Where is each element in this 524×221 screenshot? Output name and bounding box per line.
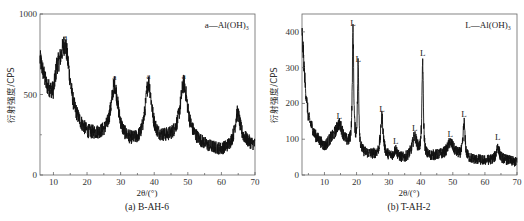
y-axis-label: 衍射强度/CPS [6, 67, 16, 122]
peak-label: L [393, 136, 399, 146]
x-axis-label: 2θ/(°) [399, 188, 420, 198]
y-tick-label: 0 [295, 170, 300, 180]
x-tick-label: 10 [49, 177, 59, 187]
x-tick-label: 70 [513, 177, 523, 187]
y-tick-label: 0 [33, 170, 38, 180]
x-tick-label: 70 [251, 177, 261, 187]
figure-caption: (b) T-AH-2 [387, 202, 430, 213]
x-tick-label: 10 [320, 177, 330, 187]
x-tick-label: 50 [448, 177, 458, 187]
figure-caption: (a) B-AH-6 [125, 202, 169, 213]
peak-label: L [355, 54, 361, 64]
y-axis-label: 衍射强度/CPS [269, 67, 279, 122]
legend-text: L—Al(OH)₃ [465, 20, 511, 30]
xrd-pattern-line [40, 37, 255, 155]
y-tick-label: 1000 [19, 9, 38, 19]
peak-label: L [379, 104, 385, 114]
peak-label: L [336, 111, 342, 121]
legend-text: a—Al(OH)₃ [205, 20, 249, 30]
x-tick-label: 20 [352, 177, 362, 187]
peak-label: L [495, 132, 501, 142]
x-tick-label: 40 [416, 177, 426, 187]
x-tick-label: 30 [384, 177, 394, 187]
peak-label: L [461, 109, 467, 119]
xrd-chart-b: 102030405060700100200300400LLLLLLLLLL 衍射… [262, 0, 524, 221]
x-axis-label: 2θ/(°) [137, 188, 158, 198]
peak-label: a [63, 32, 67, 42]
y-tick-label: 500 [24, 90, 38, 100]
y-tick-label: 200 [286, 98, 300, 108]
peak-label: L [420, 48, 426, 58]
plot-area: 102030405060700100200300400LLLLLLLLLL [286, 14, 523, 187]
xrd-pattern-line [302, 24, 517, 166]
peak-label: L [412, 123, 418, 133]
x-tick-label: 30 [116, 177, 126, 187]
peak-label: L [448, 129, 454, 139]
y-tick-label: 100 [286, 134, 300, 144]
peak-label: L [350, 18, 356, 28]
chart-panel-t-ah-2: 102030405060700100200300400LLLLLLLLLL 衍射… [262, 0, 524, 221]
xrd-chart-a: 1020304050607005001000aaaa 衍射强度/CPS 2θ/(… [0, 0, 262, 221]
x-tick-label: 50 [183, 177, 193, 187]
y-tick-label: 300 [286, 63, 300, 73]
y-tick-label: 400 [286, 27, 300, 37]
chart-panel-b-ah-6: 1020304050607005001000aaaa 衍射强度/CPS 2θ/(… [0, 0, 262, 221]
x-tick-label: 60 [217, 177, 227, 187]
peak-label: a [147, 71, 151, 81]
plot-area: 1020304050607005001000aaaa [19, 9, 260, 187]
x-tick-label: 20 [83, 177, 93, 187]
x-tick-label: 60 [480, 177, 490, 187]
peak-label: a [113, 72, 117, 82]
peak-label: a [182, 71, 186, 81]
x-tick-label: 40 [150, 177, 160, 187]
